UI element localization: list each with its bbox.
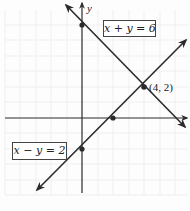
line-x-minus-y-eq-2 bbox=[37, 40, 186, 190]
equation-text: x + y = 6 bbox=[104, 22, 156, 35]
equation-text: x − y = 2 bbox=[14, 144, 66, 157]
graph-figure: y x + y = 6 (4, 2) x − y = 2 bbox=[0, 0, 190, 211]
y-axis-label: y bbox=[87, 2, 92, 14]
graph-canvas bbox=[0, 0, 190, 211]
intersection-label: (4, 2) bbox=[149, 81, 173, 93]
equation-label-x-plus-y-eq-6: x + y = 6 bbox=[103, 20, 156, 37]
point-intersection bbox=[141, 84, 147, 90]
point-x-intercept-2 bbox=[110, 115, 115, 120]
point-y-intercept-neg2 bbox=[79, 146, 84, 151]
point-y-intercept-6 bbox=[79, 22, 84, 27]
equation-label-x-minus-y-eq-2: x − y = 2 bbox=[12, 142, 67, 160]
